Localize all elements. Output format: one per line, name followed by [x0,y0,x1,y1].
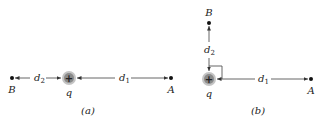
label-d1: d1 [258,73,269,86]
label-d1: d1 [119,72,130,85]
label-b: B [7,84,15,95]
label-q: q [66,87,72,98]
label-a: A [166,84,174,95]
label-q: q [206,88,212,99]
panel-b: + B A q d2 d1 (b) [202,7,315,116]
point-b-dot [10,76,14,80]
plus-sign: + [65,73,73,84]
label-d2: d2 [34,72,45,85]
plus-sign: + [205,74,213,85]
point-a-dot [169,76,173,80]
point-b-dot [207,21,211,25]
caption-a: (a) [81,105,95,116]
point-a-dot [309,77,313,81]
label-a: A [306,85,314,96]
panel-a: + B A q d2 d1 (a) [7,71,174,116]
caption-b: (b) [251,105,265,116]
diagram-canvas: + B A q d2 d1 (a) + B A q d2 d1 (b) [0,0,321,124]
label-b: B [204,7,212,18]
label-d2: d2 [204,44,215,57]
